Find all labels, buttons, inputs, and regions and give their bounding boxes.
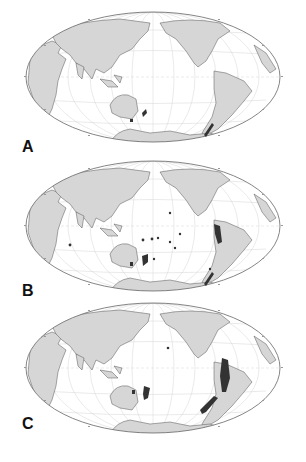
panel-c: C [0,300,306,445]
panel-a: A [0,9,306,154]
world-map-c [0,300,306,445]
panel-b: B [0,158,306,303]
world-map-b [0,158,306,303]
panel-label-a: A [22,139,34,155]
world-map-a [0,9,306,154]
panel-label-b: B [22,283,34,299]
panel-label-c: C [22,416,34,432]
